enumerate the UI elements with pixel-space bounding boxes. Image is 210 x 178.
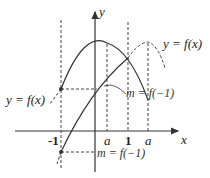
tick-neg1: -1 [48,133,59,148]
function-graph-diagram: y x -1 a 1 a y = f(x) y = f(x) m = f(−1)… [0,0,210,178]
solid-curve-extension [50,89,61,104]
m-label-upper: m = f(−1) [126,86,174,100]
curve-label-left: y = f(x) [4,92,45,107]
tick-a2: a [145,133,152,148]
point-lower [59,150,63,154]
curve-label-right: y = f(x) [161,36,202,51]
y-axis-label: y [97,4,105,19]
m-label-lower: m = f(−1) [97,146,145,160]
point-upper [59,87,63,91]
x-axis-label: x [180,132,187,147]
dashed-curve [128,42,165,68]
